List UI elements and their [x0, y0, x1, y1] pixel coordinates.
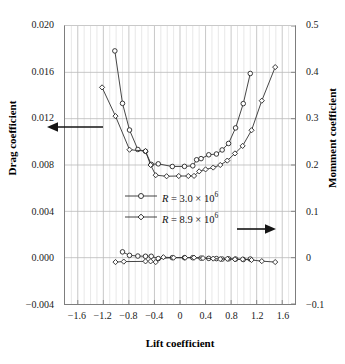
- x-tick: −1.2: [94, 311, 112, 321]
- y-tick-right: 0.1: [301, 207, 319, 217]
- x-tick: 0: [178, 311, 183, 321]
- x-tick: −0.8: [119, 311, 137, 321]
- data-layer: [65, 26, 295, 304]
- y-tick-right: 0.5: [301, 20, 319, 30]
- x-tick: 1.2: [251, 311, 264, 321]
- right-axis-arrow-icon: [237, 222, 277, 236]
- y-tick-left: −0.004: [26, 300, 59, 310]
- y-tick-left: 0.020: [32, 20, 60, 30]
- chart-legend: R = 3.0 × 106R = 8.9 × 106: [124, 186, 218, 227]
- x-tick: −0.4: [145, 311, 163, 321]
- x-tick: −1.6: [68, 311, 86, 321]
- legend-item: R = 8.9 × 106: [124, 207, 218, 228]
- y-tick-left: 0.016: [32, 67, 60, 77]
- y-axis-left-title: Drag coefficient: [6, 78, 18, 198]
- legend-label: R = 3.0 × 106: [162, 186, 218, 207]
- y-axis-right-title: Momment coefficient: [326, 78, 338, 198]
- legend-item: R = 3.0 × 106: [124, 186, 218, 207]
- y-tick-left: 0.008: [32, 160, 60, 170]
- x-tick: 1.6: [277, 311, 290, 321]
- x-axis-title: Lift coefficient: [64, 337, 296, 349]
- y-tick-right: 0: [301, 253, 311, 263]
- series-1: [99, 65, 277, 179]
- y-tick-right: −0.1: [301, 300, 324, 310]
- y-tick-right: 0.4: [301, 67, 319, 77]
- y-tick-left: 0.004: [32, 207, 60, 217]
- left-axis-arrow-icon: [46, 120, 104, 134]
- diamond-marker-icon: [124, 211, 158, 223]
- y-tick-right: 0.3: [301, 113, 319, 123]
- y-tick-right: 0.2: [301, 160, 319, 170]
- y-tick-left: 0.000: [32, 253, 60, 263]
- x-tick: 0.4: [200, 311, 213, 321]
- chart-figure: 0.0200.0160.0120.0080.0040.000−0.004 0.5…: [0, 0, 345, 364]
- legend-label: R = 8.9 × 106: [162, 207, 218, 228]
- circle-marker-icon: [124, 190, 158, 202]
- series-0: [113, 49, 253, 169]
- x-axis-ticks: −1.6−1.2−0.8−0.400.40.81.21.6: [64, 311, 296, 325]
- plot-area: [64, 25, 296, 305]
- x-tick: 0.8: [225, 311, 238, 321]
